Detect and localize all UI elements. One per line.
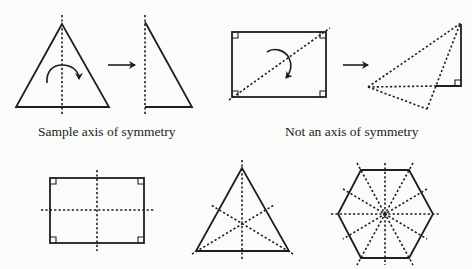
- rectangle-diagonal: [229, 28, 330, 100]
- rectangle-two-axes: [41, 170, 154, 251]
- curved-arrow-icon: [47, 65, 79, 83]
- symmetry-axis: [192, 205, 274, 254]
- folded-rectangle: [368, 23, 461, 109]
- half-triangle: [145, 15, 192, 114]
- regular-hexagon-six-axes: [331, 163, 440, 265]
- isosceles-triangle: [16, 15, 109, 114]
- caption-not-axis: Not an axis of symmetry: [285, 124, 418, 140]
- equilateral-triangle-three-axes: [192, 160, 293, 260]
- caption-sample-axis: Sample axis of symmetry: [38, 124, 176, 140]
- center-point: [383, 212, 387, 216]
- diagonal-line: [229, 28, 330, 100]
- symmetry-axis: [211, 205, 293, 254]
